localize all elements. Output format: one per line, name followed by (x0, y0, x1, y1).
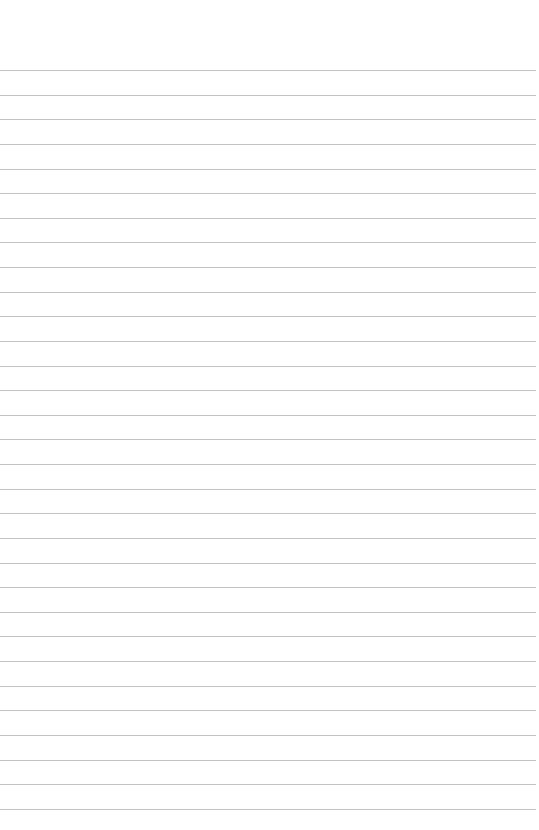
ruled-line (0, 538, 536, 539)
ruled-line (0, 193, 536, 194)
ruled-line (0, 661, 536, 662)
ruled-line (0, 710, 536, 711)
ruled-line (0, 489, 536, 490)
ruled-line (0, 316, 536, 317)
ruled-line (0, 784, 536, 785)
ruled-line (0, 612, 536, 613)
ruled-line (0, 119, 536, 120)
ruled-line (0, 809, 536, 810)
ruled-line (0, 242, 536, 243)
ruled-line (0, 735, 536, 736)
ruled-line (0, 144, 536, 145)
ruled-line (0, 760, 536, 761)
ruled-line (0, 415, 536, 416)
ruled-line (0, 341, 536, 342)
ruled-line (0, 95, 536, 96)
ruled-line (0, 439, 536, 440)
ruled-line (0, 366, 536, 367)
ruled-line (0, 390, 536, 391)
ruled-line (0, 464, 536, 465)
ruled-line (0, 686, 536, 687)
ruled-line (0, 636, 536, 637)
ruled-line (0, 292, 536, 293)
ruled-line (0, 563, 536, 564)
ruled-line (0, 218, 536, 219)
ruled-line (0, 267, 536, 268)
ruled-line (0, 587, 536, 588)
ruled-line (0, 513, 536, 514)
ruled-line (0, 169, 536, 170)
ruled-line (0, 70, 536, 71)
lined-paper-page (0, 0, 539, 830)
